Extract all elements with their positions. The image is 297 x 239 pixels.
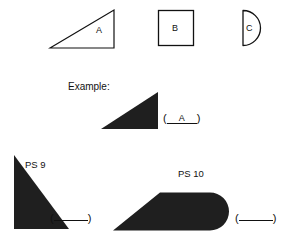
ps10-answer-open-paren: ( bbox=[235, 212, 239, 224]
example-shape bbox=[101, 92, 159, 130]
ps10-answer-blank[interactable]: () bbox=[235, 213, 276, 224]
ps9-answer-value[interactable] bbox=[54, 220, 88, 221]
ps9-answer-close-paren: ) bbox=[88, 212, 92, 224]
shape-c-label: C bbox=[246, 24, 253, 33]
example-answer-blank[interactable]: (A) bbox=[163, 113, 200, 125]
ps10-filled-wedge-icon bbox=[112, 190, 236, 235]
example-answer-value[interactable]: A bbox=[167, 114, 197, 124]
ps9-label: PS 9 bbox=[25, 160, 46, 170]
ps10-shape bbox=[112, 190, 236, 235]
ps9-answer-blank[interactable]: () bbox=[50, 213, 91, 224]
shape-b-label: B bbox=[172, 24, 178, 33]
shape-a-label: A bbox=[96, 26, 102, 35]
key-shape-c bbox=[241, 9, 267, 47]
ps10-answer-close-paren: ) bbox=[273, 212, 277, 224]
ps10-answer-value[interactable] bbox=[239, 220, 273, 221]
example-filled-triangle-icon bbox=[101, 92, 159, 130]
worksheet-page: A B C Example: (A) PS 9 () PS 10 bbox=[0, 0, 297, 239]
ps10-label: PS 10 bbox=[178, 169, 204, 179]
ps9-answer-open-paren: ( bbox=[50, 212, 54, 224]
example-caption: Example: bbox=[68, 82, 110, 92]
example-answer-close-paren: ) bbox=[197, 112, 201, 124]
shape-a-triangle-icon bbox=[48, 8, 116, 50]
key-shape-a bbox=[48, 8, 116, 50]
shape-c-semicircle-icon bbox=[241, 9, 267, 47]
